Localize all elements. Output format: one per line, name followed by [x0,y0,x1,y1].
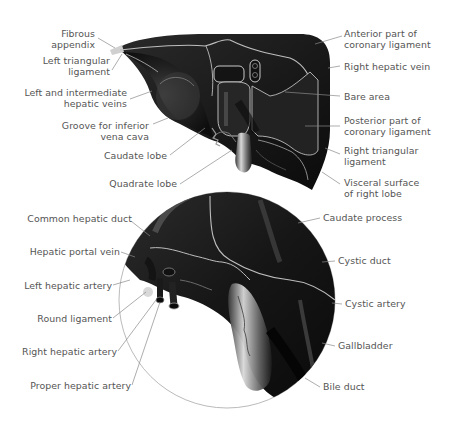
label-right-triangular-ligament: Right triangular ligament [344,145,418,167]
label-line: Cystic artery [345,298,406,309]
label-gallbladder: Gallbladder [338,340,393,351]
label-line: Fibrous [51,28,95,39]
label-posterior-coronary-ligament: Posterior part of coronary ligament [344,115,431,137]
liver-anatomy-diagram: Fibrous appendix Left triangular ligamen… [0,0,457,424]
label-groove-ivc: Groove for inferior vena cava [62,120,149,142]
label-line: Groove for inferior [62,120,149,131]
label-line: Left hepatic artery [24,280,112,291]
label-left-hepatic-artery: Left hepatic artery [24,280,112,291]
label-line: Right triangular [344,145,418,156]
label-line: ligament [43,66,110,77]
label-line: Bare area [344,91,390,102]
label-round-ligament: Round ligament [37,313,112,324]
label-right-hepatic-artery: Right hepatic artery [22,346,117,357]
label-caudate-lobe: Caudate lobe [104,150,167,161]
label-line: Proper hepatic artery [30,380,131,391]
label-proper-hepatic-artery: Proper hepatic artery [30,380,131,391]
label-bile-duct: Bile duct [323,381,365,392]
label-fibrous-appendix: Fibrous appendix [51,28,95,50]
label-line: Hepatic portal vein [30,246,120,257]
label-line: Caudate lobe [104,150,167,161]
label-line: Right hepatic vein [344,61,430,72]
label-line: Round ligament [37,313,112,324]
label-quadrate-lobe: Quadrate lobe [109,178,177,189]
label-line: hepatic veins [24,98,127,109]
label-line: Visceral surface [344,177,419,188]
label-hepatic-portal-vein: Hepatic portal vein [30,246,120,257]
label-line: appendix [51,39,95,50]
label-cystic-artery: Cystic artery [345,298,406,309]
label-line: Cystic duct [338,255,391,266]
label-line: coronary ligament [344,126,431,137]
label-caudate-process: Caudate process [323,212,402,223]
label-line: Quadrate lobe [109,178,177,189]
label-line: Right hepatic artery [22,346,117,357]
label-visceral-surface-right-lobe: Visceral surface of right lobe [344,177,419,199]
label-line: of right lobe [344,188,419,199]
label-line: Left and intermediate [24,87,127,98]
label-line: vena cava [62,131,149,142]
label-line: Posterior part of [344,115,431,126]
label-common-hepatic-duct: Common hepatic duct [27,213,132,224]
label-line: Anterior part of [344,28,431,39]
label-anterior-coronary-ligament: Anterior part of coronary ligament [344,28,431,50]
label-right-hepatic-vein: Right hepatic vein [344,61,430,72]
liver-top-view [110,34,330,190]
magnified-porta-hepatis [110,192,340,408]
label-line: ligament [344,156,418,167]
label-line: Gallbladder [338,340,393,351]
label-cystic-duct: Cystic duct [338,255,391,266]
label-bare-area: Bare area [344,91,390,102]
label-line: Left triangular [43,55,110,66]
label-line: coronary ligament [344,39,431,50]
label-line: Caudate process [323,212,402,223]
label-left-intermediate-hepatic-veins: Left and intermediate hepatic veins [24,87,127,109]
label-left-triangular-ligament: Left triangular ligament [43,55,110,77]
label-line: Bile duct [323,381,365,392]
label-line: Common hepatic duct [27,213,132,224]
